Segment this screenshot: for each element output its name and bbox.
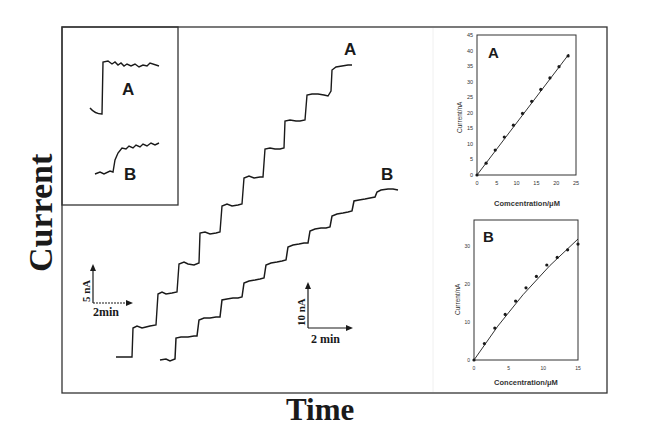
panel-a-letter: A (488, 44, 499, 61)
svg-text:10: 10 (541, 365, 547, 371)
svg-text:15: 15 (467, 125, 473, 131)
scalebar-left-vertical-label: 5 nA (80, 280, 92, 302)
svg-text:35: 35 (467, 63, 473, 69)
panel-b-letter: B (483, 228, 494, 245)
svg-text:10: 10 (514, 180, 520, 186)
svg-text:40: 40 (467, 48, 473, 54)
svg-text:5: 5 (470, 156, 473, 162)
trace-a-label: A (344, 40, 356, 59)
svg-text:30: 30 (467, 79, 473, 85)
panel-b-points (472, 243, 579, 362)
panel-b-yticks: 0 10 20 30 (464, 243, 470, 363)
svg-text:25: 25 (467, 94, 473, 100)
figure-canvas: A B A B Current Time 5 nA 2min 10 nA 2 m… (0, 0, 648, 441)
trace-b (160, 189, 398, 361)
panel-a-xticks: 0 5 10 15 20 25 (475, 180, 579, 186)
svg-text:10: 10 (464, 319, 470, 325)
svg-text:5: 5 (507, 365, 510, 371)
panel-a-ylabel: Current/nA (456, 101, 463, 133)
inset-b-label: B (124, 165, 136, 184)
x-axis-title: Time (286, 392, 354, 427)
svg-text:5: 5 (495, 180, 498, 186)
svg-text:0: 0 (475, 180, 478, 186)
svg-text:25: 25 (573, 180, 579, 186)
svg-text:0: 0 (473, 365, 476, 371)
trace-b-label: B (381, 165, 393, 184)
svg-text:20: 20 (464, 281, 470, 287)
svg-text:20: 20 (467, 110, 473, 116)
svg-text:15: 15 (533, 180, 539, 186)
scalebar-right: 10 nA 2 min (295, 282, 353, 346)
svg-text:45: 45 (467, 32, 473, 38)
panel-b-ylabel: Current/nA (454, 283, 461, 315)
panel-a-yticks: 0 5 10 15 20 25 30 35 40 45 (467, 32, 473, 178)
svg-text:10: 10 (467, 141, 473, 147)
svg-text:20: 20 (553, 180, 559, 186)
svg-text:0: 0 (467, 357, 470, 363)
scalebar-left: 5 nA 2min (80, 264, 133, 319)
scalebar-left-horizontal-label: 2min (93, 305, 119, 319)
svg-text:15: 15 (575, 365, 581, 371)
svg-text:0: 0 (470, 172, 473, 178)
trace-a (116, 65, 352, 357)
inset-frame (62, 27, 178, 205)
inset-a-label: A (122, 80, 134, 99)
svg-text:30: 30 (464, 243, 470, 249)
panel-b-xticks: 0 5 10 15 (473, 365, 581, 371)
scalebar-right-horizontal-label: 2 min (311, 332, 340, 346)
y-axis-title: Current (22, 153, 59, 272)
scalebar-right-vertical-label: 10 nA (295, 298, 307, 326)
calibration-panel-a: A 0 5 10 15 20 25 30 35 40 45 0 5 10 15 … (456, 32, 579, 208)
panel-b-xlabel: Concentration/μM (494, 378, 558, 387)
panel-a-xlabel: Comcentration/μM (494, 199, 560, 208)
calibration-panel-b: B 0 10 20 30 0 5 10 15 Current/nA (454, 220, 581, 387)
